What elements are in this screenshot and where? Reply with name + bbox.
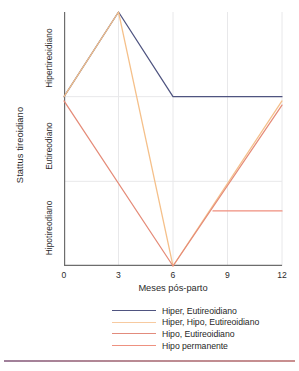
- y-tick-label-hipertireoidiano: Hipertireoidiano: [36, 12, 62, 104]
- legend-swatch-icon: [112, 345, 156, 346]
- plot-area: [64, 12, 282, 266]
- bottom-divider: [4, 360, 295, 362]
- chart-legend: Hiper, EutireoidianoHiper, Hipo, Eutireo…: [112, 305, 297, 351]
- x-tick-label-0: 0: [62, 270, 67, 280]
- chart-plot-svg: [64, 12, 282, 266]
- x-tick-label-9: 9: [225, 270, 230, 280]
- chart-figure: Stattus tireoidiano Hipertireoidiano Eut…: [0, 0, 299, 371]
- x-tick-label-12: 12: [277, 270, 287, 280]
- legend-item[interactable]: Hiper, Hipo, Eutireoidiano: [112, 317, 297, 329]
- legend-swatch-icon: [112, 322, 156, 323]
- legend-swatch-icon: [112, 333, 156, 334]
- x-tick-label-3: 3: [116, 270, 121, 280]
- legend-item-label: Hiper, Eutireoidiano: [162, 306, 237, 316]
- gridlines: [64, 12, 282, 266]
- legend-item-label: Hipo, Eutireoidiano: [162, 329, 234, 339]
- legend-swatch-icon: [112, 310, 156, 311]
- y-tick-label-hipotireodiano: Hipotireodiano: [36, 186, 62, 270]
- y-tick-label-eutireodiano: Eutireodiano: [36, 110, 62, 182]
- legend-item-label: Hipo permanente: [162, 341, 228, 351]
- legend-item[interactable]: Hipo, Eutireoidiano: [112, 328, 297, 340]
- legend-item-label: Hiper, Hipo, Eutireoidiano: [162, 317, 259, 327]
- y-tick-label-eutireodiano-text: Eutireodiano: [44, 122, 54, 170]
- y-axis-title: Stattus tireoidiano: [8, 0, 32, 290]
- legend-item[interactable]: Hipo permanente: [112, 340, 297, 352]
- x-tick-label-6: 6: [171, 270, 176, 280]
- y-tick-label-hipotireodiano-text: Hipotireodiano: [44, 201, 54, 256]
- y-axis-title-text: Stattus tireoidiano: [15, 107, 25, 183]
- x-axis-title: Meses pós-parto: [64, 283, 282, 293]
- legend-item[interactable]: Hiper, Eutireoidiano: [112, 305, 297, 317]
- y-tick-label-hipertireoidiano-text: Hipertireoidiano: [44, 28, 54, 87]
